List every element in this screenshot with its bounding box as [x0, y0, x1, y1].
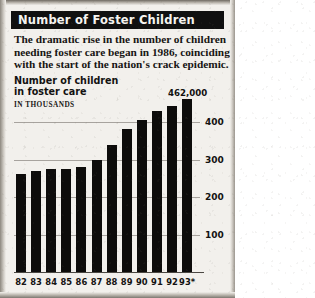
x-axis-tick-label: 87 [89, 277, 105, 287]
title-bar: Number of Foster Children [11, 11, 224, 29]
x-axis-tick-label: 82 [13, 277, 29, 287]
scan-edge-right [230, 0, 235, 298]
bar [137, 120, 147, 272]
chart-caption-line: in foster care [14, 87, 118, 98]
x-axis-tick-label: 90 [134, 277, 150, 287]
bar [107, 145, 117, 272]
x-axis-tick-label: 91 [149, 277, 165, 287]
bar [46, 169, 56, 272]
bar [182, 99, 192, 272]
deck-line: needing foster care began in 1986, coinc… [14, 46, 222, 59]
bar [76, 167, 86, 272]
page-title: Number of Foster Children [18, 13, 195, 27]
peak-value-annotation: 462,000 [168, 88, 207, 98]
bar [31, 171, 41, 272]
scan-edge-bottom [0, 292, 235, 298]
x-axis-tick-label: 93* [179, 277, 195, 287]
deck-text: The dramatic rise in the number of child… [14, 33, 222, 71]
scan-edge-left [0, 0, 6, 298]
x-axis-tick-label: 84 [43, 277, 59, 287]
chart-caption: Number of children in foster care IN THO… [14, 76, 118, 109]
scan-edge-top [0, 0, 235, 5]
x-axis-tick-label: 83 [28, 277, 44, 287]
x-axis-tick-label: 88 [104, 277, 120, 287]
x-axis-tick-label: 85 [58, 277, 74, 287]
y-axis-tick-label: 200 [205, 192, 224, 202]
deck-line: The dramatic rise in the number of child… [14, 33, 222, 46]
bar [61, 169, 71, 272]
bar [122, 129, 132, 272]
x-axis-tick-label: 92 [164, 277, 180, 287]
axis-units-label: IN THOUSANDS [14, 100, 118, 109]
bar [167, 106, 177, 272]
bar [16, 174, 26, 272]
x-axis-tick-label: 86 [73, 277, 89, 287]
y-axis-tick-label: 100 [205, 230, 224, 240]
chart-caption-line: Number of children [14, 76, 118, 87]
foster-children-chart-figure: Number of Foster Children The dramatic r… [0, 0, 235, 298]
x-axis-baseline [14, 272, 204, 273]
bar [92, 160, 102, 272]
y-axis-tick-label: 400 [205, 117, 224, 127]
x-axis-tick-label: 89 [119, 277, 135, 287]
bar [152, 111, 162, 272]
deck-line: with the start of the nation's crack epi… [14, 58, 222, 71]
y-axis-tick-label: 300 [205, 155, 224, 165]
